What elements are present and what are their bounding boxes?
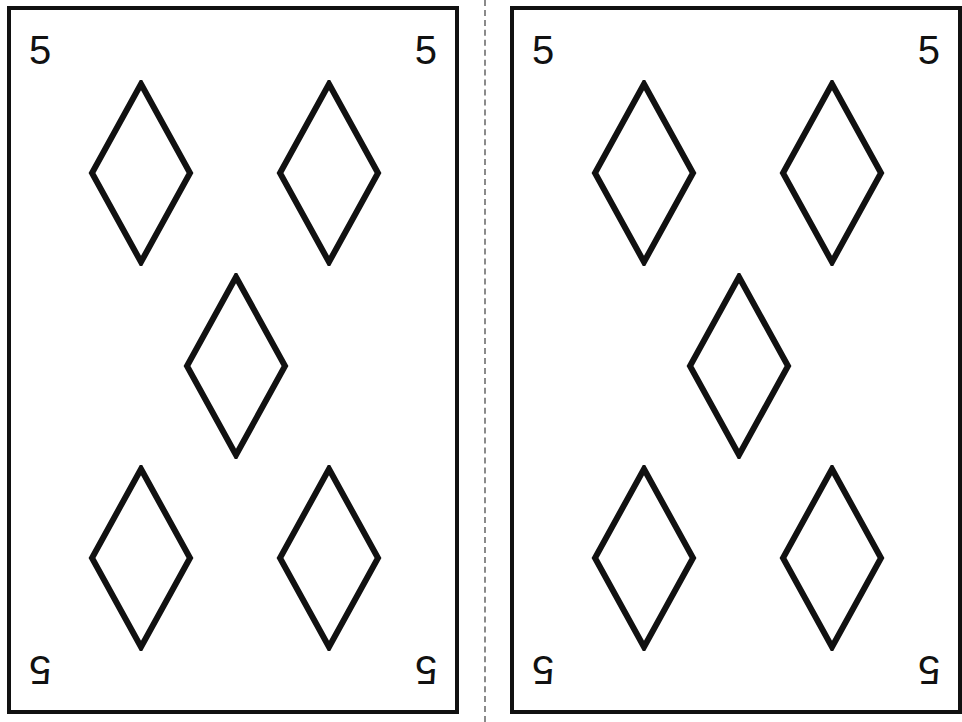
- corner-index-top-left: 5: [532, 30, 554, 70]
- corner-index-bottom-right: 5: [918, 650, 940, 690]
- diamond-pip-icon: [276, 465, 382, 651]
- diamond-pip-icon: [88, 80, 194, 266]
- playing-card-five-of-diamonds-clipped[interactable]: 5 5 5 5: [510, 6, 962, 714]
- diamond-pip-icon: [88, 465, 194, 651]
- corner-index-top-right: 5: [415, 30, 437, 70]
- diamond-pip-icon: [591, 465, 697, 651]
- diamond-pip-icon: [779, 465, 885, 651]
- corner-index-bottom-left: 5: [532, 650, 554, 690]
- diamond-pip-icon: [183, 273, 289, 459]
- corner-index-top-right: 5: [918, 30, 940, 70]
- corner-index-top-left: 5: [29, 30, 51, 70]
- diamond-pip-icon: [276, 80, 382, 266]
- playing-card-five-of-diamonds[interactable]: 5 5 5 5: [7, 6, 459, 714]
- diamond-pip-icon: [686, 273, 792, 459]
- cut-line-guide: [484, 0, 486, 722]
- diamond-pip-icon: [779, 80, 885, 266]
- diamond-pip-icon: [591, 80, 697, 266]
- corner-index-bottom-right: 5: [415, 650, 437, 690]
- corner-index-bottom-left: 5: [29, 650, 51, 690]
